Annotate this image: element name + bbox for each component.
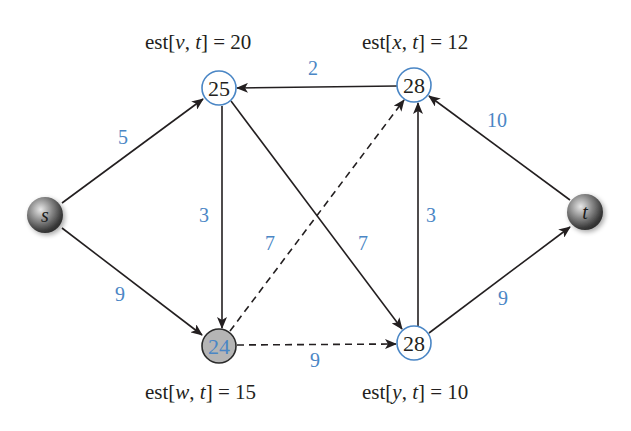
- node-t-label: t: [582, 201, 588, 223]
- est-prefix: est[: [145, 380, 175, 404]
- weight-t-x: 10: [487, 109, 507, 131]
- weight-v-w: 3: [199, 204, 209, 226]
- node-w: 24: [202, 329, 236, 363]
- node-y: 28: [397, 326, 431, 360]
- est-label-w: est[w, t] = 15: [145, 380, 256, 404]
- est-suffix: ] = 10: [418, 380, 468, 404]
- est-comma: ,: [189, 380, 200, 404]
- est-suffix: ] = 12: [418, 30, 468, 54]
- shortest-path-graph: 5 9 2 3 7 7 9 3 10 9 s t 25 28 24 28 est…: [0, 0, 631, 431]
- est-var: y: [390, 380, 402, 404]
- weight-x-v: 2: [308, 57, 318, 79]
- weight-w-x: 7: [265, 232, 275, 254]
- edge-y-t: [429, 227, 570, 333]
- node-y-value: 28: [403, 331, 425, 356]
- edge-x-v: [237, 86, 397, 88]
- est-prefix: est[: [362, 30, 392, 54]
- est-comma: ,: [402, 380, 413, 404]
- edge-s-v: [62, 99, 203, 203]
- weight-y-t: 9: [498, 287, 508, 309]
- node-v-value: 25: [208, 76, 230, 101]
- weight-w-y: 9: [310, 349, 320, 371]
- edge-s-w: [62, 228, 202, 335]
- weight-s-v: 5: [118, 126, 128, 148]
- node-x: 28: [397, 68, 431, 102]
- node-s-label: s: [41, 204, 49, 226]
- est-suffix: ] = 20: [201, 30, 251, 54]
- edge-weights: 5 9 2 3 7 7 9 3 10 9: [115, 57, 508, 371]
- node-w-value: 24: [208, 334, 230, 359]
- weight-s-w: 9: [115, 283, 125, 305]
- weight-v-y: 7: [358, 232, 368, 254]
- weight-y-x: 3: [426, 204, 436, 226]
- est-prefix: est[: [362, 380, 392, 404]
- est-var: w: [175, 380, 189, 404]
- node-x-value: 28: [403, 73, 425, 98]
- node-v: 25: [202, 71, 236, 105]
- edge-w-y: [237, 344, 396, 345]
- node-s: s: [27, 197, 63, 233]
- est-comma: ,: [185, 30, 196, 54]
- node-t: t: [567, 194, 603, 230]
- est-label-v: est[v, t] = 20: [145, 30, 251, 54]
- est-comma: ,: [402, 30, 413, 54]
- est-label-y: est[y, t] = 10: [362, 380, 468, 404]
- est-label-x: est[x, t] = 12: [362, 30, 468, 54]
- est-suffix: ] = 15: [206, 380, 256, 404]
- est-prefix: est[: [145, 30, 175, 54]
